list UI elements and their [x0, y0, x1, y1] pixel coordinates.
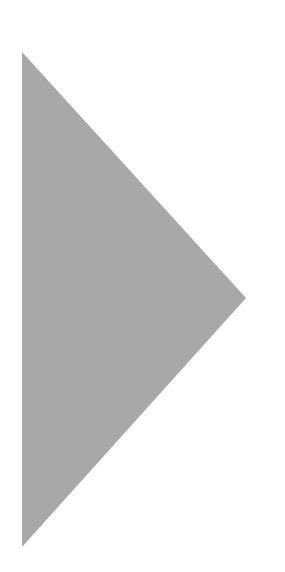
play-triangle-icon — [0, 0, 285, 572]
triangle-shape — [22, 52, 246, 547]
triangle-icon-container — [0, 0, 285, 572]
